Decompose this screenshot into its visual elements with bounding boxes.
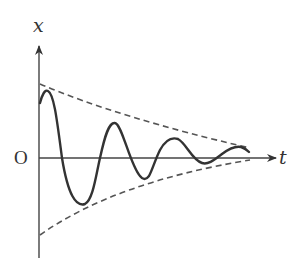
damped-oscillation-curve [40,91,249,205]
upper-envelope-dashed-line [40,84,250,148]
x-axis-label: x [33,14,44,36]
origin-label: O [14,147,28,169]
t-axis-label: t [279,146,287,168]
lower-envelope-dashed-line [40,160,250,235]
damped-oscillation-diagram [0,0,307,274]
